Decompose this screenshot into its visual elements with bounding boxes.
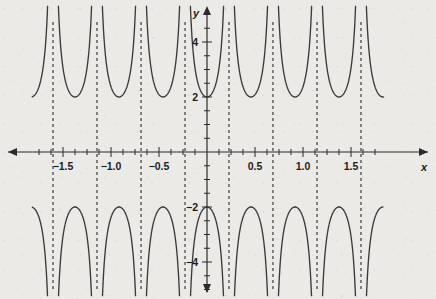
x-tick-label: 1.5: [344, 160, 359, 172]
function-graph: −1.5−1.0−0.50.51.01.542−2−4 x y: [0, 0, 436, 299]
plot-background: [0, 0, 436, 299]
x-axis-label: x: [420, 161, 428, 173]
x-tick-label: 0.5: [248, 160, 263, 172]
y-axis-label: y: [192, 7, 200, 19]
x-tick-label: −1.5: [53, 160, 74, 172]
y-tick-label: 4: [192, 36, 198, 48]
x-tick-label: −0.5: [149, 160, 170, 172]
x-tick-label: 1.0: [296, 160, 311, 172]
x-tick-label: −1.0: [101, 160, 122, 172]
y-tick-label: −2: [186, 201, 198, 213]
y-tick-label: 2: [192, 91, 198, 103]
y-tick-label: −4: [186, 256, 198, 268]
